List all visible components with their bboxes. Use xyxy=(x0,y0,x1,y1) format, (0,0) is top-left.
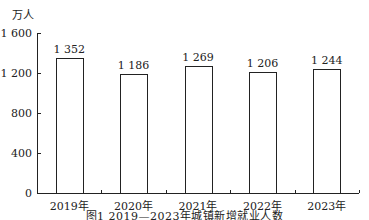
bar-2020年 xyxy=(121,75,148,194)
y-tick-label: 400 xyxy=(0,147,32,160)
y-tick-label: 1 600 xyxy=(0,27,32,40)
bar-value-label: 1 352 xyxy=(39,43,99,56)
y-axis-unit-label: 万人 xyxy=(12,6,34,22)
bar-value-label: 1 206 xyxy=(232,57,292,70)
bar-chart-plot xyxy=(0,0,369,220)
bar-2022年 xyxy=(250,73,277,194)
bar-value-label: 1 269 xyxy=(168,51,228,64)
figure-caption: 图1 2019—2023年城镇新增就业人数 xyxy=(0,207,369,220)
bar-value-label: 1 186 xyxy=(104,59,164,72)
bar-value-label: 1 244 xyxy=(297,54,357,67)
y-tick-label: 1 200 xyxy=(0,67,32,80)
bar-2019年 xyxy=(57,59,84,194)
bar-2023年 xyxy=(314,70,341,194)
y-tick-label: 0 xyxy=(0,187,32,200)
y-tick-label: 800 xyxy=(0,107,32,120)
bar-2021年 xyxy=(186,67,213,194)
